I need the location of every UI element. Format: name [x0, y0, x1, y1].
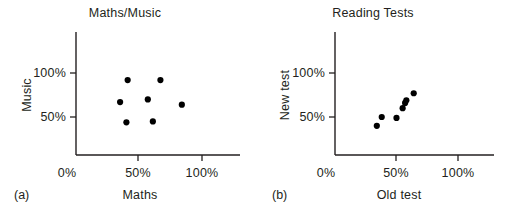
data-point	[125, 77, 131, 83]
panel-b: Reading Tests New test 100% 50% 0%	[258, 0, 515, 211]
data-point	[400, 105, 406, 111]
data-point	[123, 119, 129, 125]
panel-a-xtick-label-0: 0%	[46, 166, 88, 180]
panel-b-xtick-label-50: 50%	[372, 166, 420, 180]
data-point	[150, 118, 156, 124]
panel-a-caption: (a)	[14, 188, 29, 202]
data-point	[411, 90, 417, 96]
data-point	[403, 97, 409, 103]
data-point	[117, 99, 123, 105]
panel-b-x-axis-label: Old test	[356, 188, 442, 202]
data-point	[157, 77, 163, 83]
panel-b-xtick-label-100: 100%	[430, 166, 486, 180]
data-point	[379, 114, 385, 120]
panel-a-xtick-label-50: 50%	[114, 166, 162, 180]
panel-a-ytick-label-50: 50%	[14, 110, 66, 124]
panel-b-ytick-label-50: 50%	[273, 110, 325, 124]
panel-b-ytick-label-100: 100%	[273, 66, 325, 80]
panel-a-xtick-label-100: 100%	[174, 166, 230, 180]
panel-b-caption: (b)	[272, 188, 287, 202]
data-point	[374, 123, 380, 129]
data-point	[145, 96, 151, 102]
panel-a-data-points	[117, 77, 185, 125]
panel-a-ytick-label-100: 100%	[14, 66, 66, 80]
data-point	[179, 102, 185, 108]
panel-a-x-axis-label: Maths	[100, 188, 180, 202]
panel-b-xtick-label-0: 0%	[305, 166, 347, 180]
data-point	[393, 115, 399, 121]
panel-a: Maths/Music Music	[0, 0, 257, 211]
scatter-plot-figure: Maths/Music Music	[0, 0, 515, 211]
panel-b-data-points	[374, 90, 417, 129]
